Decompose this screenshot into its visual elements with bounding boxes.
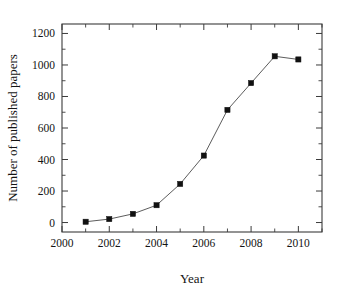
plot-frame — [62, 24, 322, 232]
chart-figure: 200020022004200620082010 020040060080010… — [0, 0, 338, 291]
line-chart: 200020022004200620082010 020040060080010… — [0, 0, 338, 291]
x-tick-label: 2006 — [192, 237, 215, 249]
series-line — [86, 56, 299, 221]
y-tick-label: 200 — [38, 185, 56, 197]
y-axis-ticks-right — [316, 33, 322, 222]
x-tick-label: 2002 — [98, 237, 121, 249]
y-tick-label: 400 — [38, 154, 56, 166]
data-point — [248, 80, 253, 85]
data-point — [107, 216, 112, 221]
data-point — [83, 219, 88, 224]
data-point — [201, 153, 206, 158]
series-markers — [83, 54, 301, 225]
y-axis-title: Number of published papers — [5, 54, 20, 202]
y-tick-label: 800 — [38, 90, 56, 102]
data-point — [178, 181, 183, 186]
x-tick-labels: 200020022004200620082010 — [51, 237, 311, 249]
x-axis-ticks — [62, 226, 322, 232]
y-axis-ticks — [62, 33, 68, 222]
y-tick-label: 600 — [38, 122, 56, 134]
y-tick-label: 0 — [49, 217, 55, 229]
data-point — [130, 211, 135, 216]
x-tick-label: 2010 — [287, 237, 310, 249]
y-tick-labels: 020040060080010001200 — [32, 27, 55, 228]
x-tick-label: 2008 — [240, 237, 263, 249]
data-point — [154, 203, 159, 208]
data-point — [225, 107, 230, 112]
x-tick-label: 2004 — [145, 237, 168, 249]
data-point — [296, 57, 301, 62]
x-axis-ticks-top — [62, 24, 322, 30]
x-axis-title: Year — [180, 271, 205, 286]
x-tick-label: 2000 — [51, 237, 74, 249]
data-point — [272, 54, 277, 59]
y-tick-label: 1200 — [32, 27, 55, 39]
y-tick-label: 1000 — [32, 59, 55, 71]
